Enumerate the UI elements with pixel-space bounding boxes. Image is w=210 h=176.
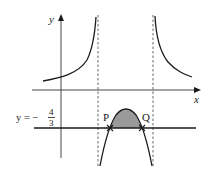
y-axis-label: y [48, 13, 54, 25]
line-label-denominator: 3 [49, 118, 54, 128]
graph-diagram: y x P Q y = − 4 3 [0, 0, 210, 176]
y-axis-arrow-icon [58, 14, 64, 21]
x-axis-label: x [193, 93, 199, 105]
right-curve-branch [155, 16, 192, 77]
point-q-label: Q [142, 111, 150, 123]
shaded-region [110, 109, 142, 128]
line-label-numerator: 4 [49, 107, 54, 117]
left-curve-branch [43, 17, 96, 81]
point-p-label: P [103, 111, 109, 123]
line-label-prefix: y = − [16, 112, 38, 123]
